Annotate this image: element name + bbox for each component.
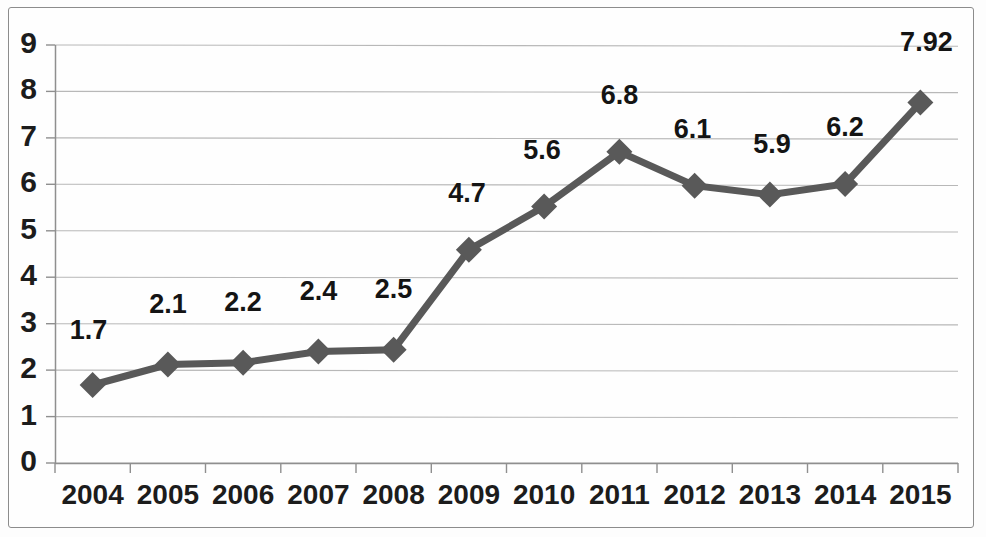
y-axis-tick-label: 8 xyxy=(20,72,37,105)
x-axis-tick-label: 2013 xyxy=(739,479,801,510)
data-point-label: 2.5 xyxy=(375,274,413,304)
data-point-marker xyxy=(305,339,331,365)
y-axis-tick-label: 2 xyxy=(20,351,37,384)
data-point-label: 5.6 xyxy=(523,135,561,165)
y-axis-tick-label: 3 xyxy=(20,305,37,338)
data-point-marker xyxy=(80,372,106,398)
x-axis-tick-label: 2005 xyxy=(137,479,199,510)
data-point-label: 6.2 xyxy=(826,112,864,142)
gridline xyxy=(55,324,958,325)
gridline xyxy=(55,138,958,139)
x-axis-tick-label: 2009 xyxy=(438,479,500,510)
data-point-marker xyxy=(155,352,181,378)
x-axis-tick-label: 2012 xyxy=(663,479,725,510)
x-axis-tick-label: 2006 xyxy=(212,479,274,510)
data-series-line xyxy=(93,103,921,385)
x-axis-tick-label: 2004 xyxy=(61,479,124,510)
y-axis-tick-label: 1 xyxy=(20,398,37,431)
y-axis-tick-label: 7 xyxy=(20,119,37,152)
data-point-label: 5.9 xyxy=(753,129,791,159)
gridline xyxy=(55,45,958,46)
data-point-label: 6.1 xyxy=(674,114,712,144)
x-axis-tick-label: 2015 xyxy=(889,479,951,510)
gridline xyxy=(55,417,958,418)
data-point-label: 1.7 xyxy=(70,315,108,345)
data-point-label: 2.4 xyxy=(300,276,338,306)
chart-plot-container: 0123456789 20042005200620072008200920102… xyxy=(0,0,986,537)
x-axis-tick-label: 2010 xyxy=(513,479,575,510)
x-tick-marks-group xyxy=(55,463,958,473)
y-axis-tick-labels: 0123456789 xyxy=(20,26,37,477)
x-axis-tick-label: 2007 xyxy=(287,479,349,510)
data-point-label: 6.8 xyxy=(601,80,639,110)
data-point-label: 2.1 xyxy=(149,289,187,319)
x-axis-tick-label: 2011 xyxy=(589,479,650,510)
data-point-markers-group xyxy=(80,90,934,398)
gridline xyxy=(55,370,958,371)
x-axis-tick-labels: 2004200520062007200820092010201120122013… xyxy=(61,479,951,510)
y-tick-marks-group xyxy=(46,45,55,463)
data-point-label: 7.92 xyxy=(900,27,953,57)
chart-figure: 0123456789 20042005200620072008200920102… xyxy=(0,0,986,537)
data-point-marker xyxy=(230,350,256,376)
gridlines-group xyxy=(55,45,958,463)
gridline xyxy=(55,277,958,278)
line-chart-svg: 0123456789 20042005200620072008200920102… xyxy=(0,0,986,537)
data-point-label: 4.7 xyxy=(448,178,486,208)
x-axis-tick-label: 2014 xyxy=(814,479,877,510)
x-axis-tick-label: 2008 xyxy=(362,479,424,510)
gridline xyxy=(55,91,958,92)
y-axis-tick-label: 9 xyxy=(20,26,37,59)
y-axis-tick-label: 0 xyxy=(20,444,37,477)
data-point-marker xyxy=(682,173,708,199)
data-point-label: 2.2 xyxy=(224,287,262,317)
y-axis-tick-label: 4 xyxy=(20,258,37,291)
y-axis-tick-label: 6 xyxy=(20,165,37,198)
y-axis-tick-label: 5 xyxy=(20,212,37,245)
